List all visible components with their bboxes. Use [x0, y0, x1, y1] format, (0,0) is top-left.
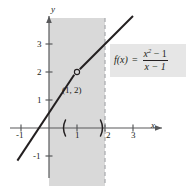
formula-function-name: f(x): [114, 55, 128, 65]
numerator-rest: − 1: [154, 48, 167, 59]
hole-point-label: (1, 2): [62, 86, 82, 95]
x-axis-arrowhead: [155, 125, 162, 131]
x-axis-label: x: [151, 121, 155, 130]
x-tick-label-1: 1: [75, 131, 80, 140]
x-tick-label-2: 2: [106, 131, 111, 140]
y-tick-label-2: 2: [37, 68, 42, 77]
x-tick-label--1: -1: [16, 131, 24, 140]
graph-figure: x y -1 1 2 3 3 2 1 -1 (1, 2) f(x) = x2 −…: [0, 0, 186, 186]
x-tick-label-3: 3: [131, 131, 136, 140]
numerator-exponent: 2: [148, 47, 151, 54]
plot-canvas: [0, 0, 186, 186]
formula-numerator: x2 − 1: [142, 48, 169, 60]
formula-denominator: x − 1: [143, 60, 168, 72]
y-tick-label-3: 3: [37, 40, 42, 49]
function-formula: f(x) = x2 − 1 x − 1: [114, 48, 169, 72]
open-circle-hole: [74, 69, 79, 74]
y-axis-label: y: [51, 5, 55, 14]
shaded-region: [49, 18, 105, 186]
y-tick-label-1: 1: [37, 96, 42, 105]
formula-equals: =: [132, 55, 138, 65]
formula-fraction: x2 − 1 x − 1: [142, 48, 169, 72]
y-tick-label--1: -1: [33, 152, 41, 161]
